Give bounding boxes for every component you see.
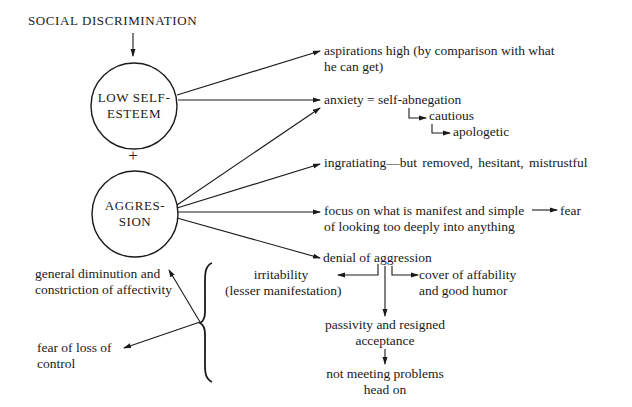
arrow-to-fear-loss (124, 322, 200, 348)
low-self-esteem-line1: LOW SELF- (91, 90, 177, 106)
low-self-esteem-line2: ESTEEM (91, 106, 177, 122)
diagram-canvas: SOCIAL DISCRIMINATION LOW SELF- ESTEEM +… (0, 0, 632, 407)
arrow-to-denial (177, 218, 320, 258)
elbow-to-cover (392, 266, 418, 275)
aggression-line1: AGGRES- (92, 198, 178, 214)
aspirations-line1: aspirations high (by comparison with wha… (324, 43, 555, 59)
irritability-line2: (lesser manifestation) (225, 283, 337, 299)
aggression-line2: SION (92, 214, 178, 230)
cover-line2: and good humor (419, 283, 508, 299)
not-meeting-line1: not meeting problems (315, 366, 455, 382)
curly-brace (200, 263, 212, 382)
passivity-line1: passivity and resigned (315, 317, 455, 333)
elbow-to-cautious (409, 108, 426, 118)
aspirations-line2: he can get) (324, 59, 383, 75)
cautious-label: cautious (429, 108, 474, 124)
arrow-to-aspirations (177, 51, 320, 95)
fear-loss-line1: fear of loss of (37, 340, 112, 356)
plus-sign: + (124, 148, 142, 164)
arrow-to-ingratiating (177, 164, 320, 208)
ingratiating-label: ingratiating—but removed, hesitant, mist… (324, 155, 588, 171)
diminution-line2: constriction of affectivity (35, 282, 172, 298)
not-meeting-line2: head on (315, 382, 455, 398)
diminution-line1: general diminution and (35, 266, 160, 282)
arrow-to-diminution (169, 270, 200, 322)
focus-line2: of looking too deeply into anything (324, 219, 515, 235)
passivity-line2: acceptance (315, 333, 455, 349)
fear-label: fear (560, 203, 581, 219)
focus-line1: focus on what is manifest and simple (324, 203, 524, 219)
denial-label: denial of aggression (323, 250, 432, 266)
elbow-to-apologetic (432, 124, 450, 133)
apologetic-label: apologetic (453, 124, 509, 140)
social-discrimination-label: SOCIAL DISCRIMINATION (28, 13, 197, 29)
irritability-line1: irritability (225, 267, 337, 283)
fear-loss-line2: control (37, 356, 75, 372)
arrow-aggression-to-anxiety (177, 108, 320, 205)
cover-line1: cover of affability (419, 267, 516, 283)
anxiety-label: anxiety = self-abnegation (324, 92, 461, 108)
